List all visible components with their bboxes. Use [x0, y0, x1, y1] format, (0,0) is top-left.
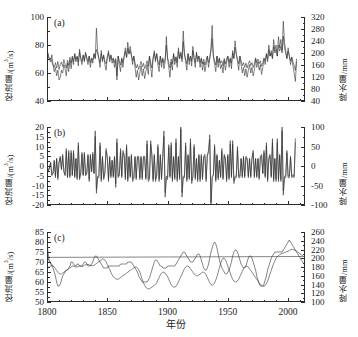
y-axis-right-tick-label: 0: [311, 162, 316, 171]
y-axis-left-tick-label: 85: [23, 228, 44, 237]
x-axis-tick-label: 2000: [279, 307, 298, 317]
y-axis-right-tick-label: 180: [311, 263, 325, 272]
x-axis-tick-label: 1900: [158, 307, 177, 317]
data-series-line: [47, 21, 297, 81]
x-axis-tick-label: 1950: [218, 307, 237, 317]
y-axis-left-tick-label: -5: [23, 171, 44, 180]
y-axis-right-tick-label: -50: [311, 181, 323, 190]
y-axis-left-tick-label: 65: [23, 268, 44, 277]
series-layer-panel-1: [47, 17, 305, 101]
y-tick-right: [301, 205, 305, 206]
x-axis-title: 年份: [166, 319, 186, 330]
y-axis-left-tick-label: 75: [23, 248, 44, 257]
y-axis-left-tick-label: 15: [23, 132, 44, 141]
y-axis-right-tick-label: 100: [311, 298, 325, 307]
y-axis-left-tick-label: 40: [23, 97, 44, 106]
y-axis-left-tick-label: 60: [23, 278, 44, 287]
y-axis-right-title: 降水量/mm: [340, 232, 349, 302]
x-axis-tick-label: 1800: [38, 307, 57, 317]
data-series-line: [47, 250, 304, 289]
y-axis-right-tick-label: 40: [311, 97, 320, 106]
y-tick-left: [47, 302, 51, 303]
y-axis-left-tick-label: 0: [23, 162, 44, 171]
data-series-line: [47, 127, 295, 205]
y-axis-right-tick-label: 120: [311, 289, 325, 298]
y-axis-left-title: 径流量/(m3/s): [2, 17, 15, 101]
y-axis-left-tick-label: 80: [23, 238, 44, 247]
y-axis-right-tick-label: 220: [311, 245, 325, 254]
y-axis-left-title: 径流量/(m3/s): [2, 232, 15, 302]
y-axis-right-tick-label: 240: [311, 236, 325, 245]
y-axis-right-tick-label: -100: [311, 201, 328, 210]
y-tick-left: [47, 101, 51, 102]
y-axis-left-title: 径流量/(m3/s): [2, 127, 15, 205]
y-axis-right-tick-label: 100: [311, 123, 325, 132]
y-tick-right: [301, 101, 305, 102]
y-axis-left-tick-label: 5: [23, 152, 44, 161]
series-clip-panel-1: [47, 17, 305, 101]
y-axis-right-tick-label: 320: [311, 13, 325, 22]
data-series-line: [47, 36, 297, 80]
series-clip-panel-2: [47, 127, 305, 205]
figure-root: 4060801004080120160200240280320(a)径流量/(m…: [0, 0, 358, 337]
y-axis-right-tick-label: 140: [311, 280, 325, 289]
y-axis-right-title: 降水量/mm: [340, 127, 349, 205]
y-tick-right: [301, 302, 305, 303]
series-clip-panel-3: [47, 232, 305, 302]
y-axis-left-tick-label: 10: [23, 142, 44, 151]
y-axis-right-tick-label: 200: [311, 49, 325, 58]
x-axis-tick-label: 1850: [98, 307, 117, 317]
data-series-line: [47, 240, 304, 286]
y-axis-right-tick-label: 120: [311, 73, 325, 82]
y-tick-left: [47, 205, 51, 206]
y-axis-left-tick-label: 50: [23, 298, 44, 307]
series-layer-panel-2: [47, 127, 305, 205]
y-axis-left-tick-label: 80: [23, 41, 44, 50]
y-axis-right-title: 降水量/mm: [340, 17, 349, 101]
y-axis-right-tick-label: 80: [311, 85, 320, 94]
y-axis-left-tick-label: 20: [23, 123, 44, 132]
y-axis-right-tick-label: 280: [311, 25, 325, 34]
y-axis-right-tick-label: 50: [311, 142, 320, 151]
y-axis-left-tick-label: -15: [23, 191, 44, 200]
series-layer-panel-3: [47, 232, 305, 302]
y-axis-right-tick-label: 160: [311, 61, 325, 70]
y-axis-left-tick-label: 60: [23, 69, 44, 78]
y-axis-right-tick-label: 240: [311, 37, 325, 46]
y-axis-left-tick-label: -10: [23, 181, 44, 190]
y-axis-left-tick-label: -20: [23, 201, 44, 210]
y-axis-left-tick-label: 55: [23, 288, 44, 297]
data-series-line: [47, 129, 295, 202]
y-axis-left-tick-label: 100: [23, 13, 44, 22]
y-axis-right-tick-label: 200: [311, 254, 325, 263]
y-axis-left-tick-label: 70: [23, 258, 44, 267]
y-axis-right-tick-label: 160: [311, 271, 325, 280]
y-axis-right-tick-label: 260: [311, 228, 325, 237]
